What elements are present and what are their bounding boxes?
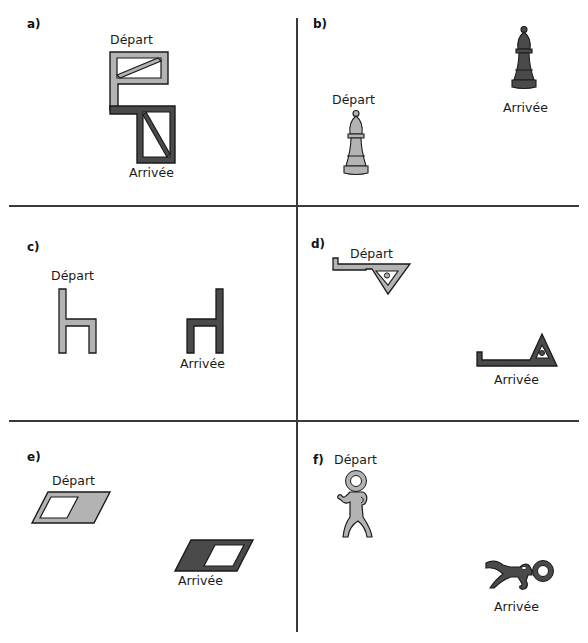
parallelogram-start-icon: [31, 491, 113, 525]
panel-label-f: f): [313, 453, 324, 467]
end-label-d: Arrivée: [494, 372, 539, 387]
stick-figure-end-icon: [484, 555, 556, 595]
triangle-bar-end-icon: [476, 332, 558, 372]
panel-label-a: a): [27, 17, 41, 31]
end-label-a: Arrivée: [129, 165, 174, 180]
parallelogram-end-icon: [174, 539, 256, 573]
end-label-b: Arrivée: [503, 100, 548, 115]
start-label-c: Départ: [51, 268, 94, 283]
start-label-a: Départ: [110, 32, 153, 47]
panel-label-c: c): [27, 240, 40, 254]
chess-bishop-end-icon: [511, 26, 537, 94]
end-label-c: Arrivée: [180, 356, 225, 371]
start-label-b: Départ: [332, 92, 375, 107]
rectangle-figure-start-icon: [108, 50, 172, 112]
vertical-divider: [296, 18, 298, 632]
triangle-bar-start-icon: [332, 257, 412, 297]
rectangle-figure-end-icon: [108, 104, 180, 166]
panel-label-d: d): [311, 237, 325, 251]
start-label-e: Départ: [52, 473, 95, 488]
horizontal-divider-top: [9, 205, 579, 207]
panel-label-b: b): [313, 17, 327, 31]
panel-label-e: e): [27, 450, 41, 464]
start-label-f: Départ: [334, 452, 377, 467]
end-label-f: Arrivée: [494, 599, 539, 614]
stick-figure-start-icon: [336, 471, 376, 539]
chair-end-icon: [186, 288, 226, 356]
chess-bishop-start-icon: [343, 110, 369, 180]
end-label-e: Arrivée: [178, 573, 223, 588]
horizontal-divider-bottom: [9, 420, 579, 422]
chair-start-icon: [58, 288, 98, 356]
